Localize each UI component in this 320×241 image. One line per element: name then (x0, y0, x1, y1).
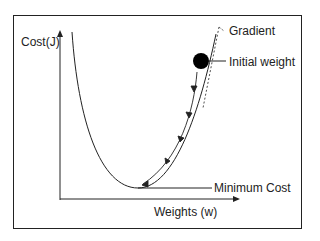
initial-weight-label: Initial weight (229, 55, 295, 69)
y-axis (57, 30, 63, 200)
gradient-label: Gradient (229, 24, 275, 38)
x-axis (60, 196, 240, 202)
y-axis-label: Cost(J) (21, 35, 60, 49)
gradient-leader-line (219, 27, 224, 31)
cost-curve (72, 32, 216, 188)
initial-weight-ball (193, 53, 209, 69)
x-axis-label: Weights (w) (154, 205, 217, 219)
minimum-cost-label: Minimum Cost (214, 181, 291, 195)
